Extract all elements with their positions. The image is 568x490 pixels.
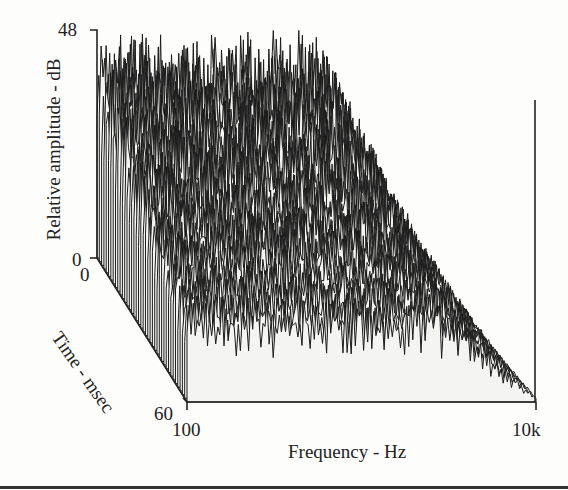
spectral-traces bbox=[97, 30, 536, 402]
t-tick-60: 60 bbox=[154, 404, 173, 423]
x-axis-title: Frequency - Hz bbox=[288, 442, 406, 461]
f-tick-10k: 10k bbox=[512, 420, 541, 439]
f-tick-100: 100 bbox=[172, 420, 201, 439]
waterfall-plot bbox=[0, 0, 568, 490]
bottom-rule bbox=[0, 486, 568, 489]
t-tick-0: 0 bbox=[80, 265, 90, 284]
y-axis-title: Relative amplitude - dB bbox=[44, 35, 63, 265]
amplitude-axis bbox=[90, 30, 97, 258]
